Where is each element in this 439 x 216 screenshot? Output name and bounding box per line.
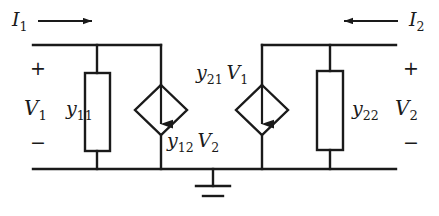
- label-voltage-v1: V1: [24, 98, 47, 122]
- polarity-minus-right: −: [403, 133, 419, 152]
- polarity-minus-left: −: [30, 133, 46, 152]
- label-source-y12v2: y12 V2: [167, 131, 219, 154]
- label-current-i2: I2: [409, 10, 425, 33]
- label-admittance-y11: y11: [66, 99, 93, 122]
- label-source-y21v1: y21 V1: [196, 63, 248, 86]
- label-current-i1: I1: [12, 10, 28, 33]
- y22-admittance-box: [317, 71, 343, 150]
- polarity-plus-left: +: [30, 59, 46, 78]
- label-admittance-y22: y22: [352, 99, 379, 122]
- circuit-diagram: I1 I2 V1 V2 y11 y22 y12 V2 y21 V1 + − + …: [0, 0, 439, 216]
- label-voltage-v2: V2: [395, 98, 418, 122]
- polarity-plus-right: +: [403, 59, 419, 78]
